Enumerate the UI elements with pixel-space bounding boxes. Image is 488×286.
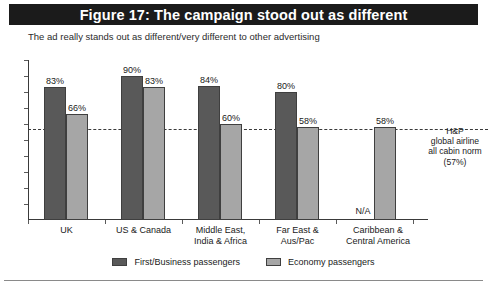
- bar-first-business-far-east-auspac: [275, 92, 297, 220]
- figure-subtitle: The ad really stands out as different/ve…: [28, 31, 320, 42]
- bar-group-middle-east-india-africa: 84% 60%: [182, 60, 259, 220]
- bar-label-economy-far-east-auspac: 58%: [293, 116, 323, 126]
- bar-label-first-business-middle-east-india-africa: 84%: [194, 75, 224, 85]
- bar-label-economy-middle-east-india-africa: 60%: [216, 113, 246, 123]
- x-axis-tick: [259, 220, 260, 224]
- legend-swatch-economy-icon: [266, 258, 281, 266]
- x-axis-category-label-us-canada: US & Canada: [105, 225, 182, 236]
- legend-swatch-first-business-icon: [112, 258, 127, 266]
- bar-group-far-east-auspac: 80% 58%: [259, 60, 336, 220]
- legend-item-economy: Economy passengers: [266, 257, 375, 267]
- bar-label-economy-caribbean-central-america: 58%: [370, 116, 400, 126]
- bar-label-first-business-far-east-auspac: 80%: [271, 81, 301, 91]
- category-label-line2: India & Africa: [182, 236, 259, 247]
- category-label-line1: Caribbean &: [336, 225, 420, 236]
- chart-legend: First/Business passengers Economy passen…: [0, 257, 487, 267]
- x-axis-category-label-uk: UK: [28, 225, 105, 236]
- bar-group-caribbean-central-america: N/A 58%: [336, 60, 413, 220]
- norm-annotation-line2: global airline: [424, 136, 486, 146]
- bar-economy-caribbean-central-america: [374, 127, 396, 220]
- bar-label-first-business-us-canada: 90%: [117, 65, 147, 75]
- bar-group-uk: 83% 66%: [28, 60, 105, 220]
- bar-label-economy-us-canada: 83%: [139, 76, 169, 86]
- bar-group-us-canada: 90% 83%: [105, 60, 182, 220]
- category-label-line2: Aus/Pac: [259, 236, 336, 247]
- bar-economy-uk: [66, 114, 88, 220]
- norm-annotation-line1: H&P: [424, 126, 486, 136]
- x-axis-category-label-caribbean-central-america: Caribbean & Central America: [336, 225, 420, 247]
- bar-label-economy-uk: 66%: [62, 103, 92, 113]
- x-axis-tick: [336, 220, 337, 224]
- x-axis-tick: [413, 220, 414, 224]
- bar-first-business-middle-east-india-africa: [198, 86, 220, 220]
- category-label-line1: Middle East,: [182, 225, 259, 236]
- bar-economy-us-canada: [143, 87, 165, 220]
- legend-label-first-business: First/Business passengers: [134, 257, 240, 267]
- x-axis-tick: [105, 220, 106, 224]
- bar-label-first-business-uk: 83%: [40, 76, 70, 86]
- x-axis-category-label-far-east-auspac: Far East & Aus/Pac: [259, 225, 336, 247]
- x-axis-tick: [182, 220, 183, 224]
- figure-title: Figure 17: The campaign stood out as dif…: [80, 7, 408, 23]
- figure-title-bar: Figure 17: The campaign stood out as dif…: [9, 4, 478, 25]
- category-label-line1: US & Canada: [105, 225, 182, 236]
- norm-annotation-line3: all cabin norm: [424, 146, 486, 156]
- x-axis-category-label-middle-east-india-africa: Middle East, India & Africa: [182, 225, 259, 247]
- bar-economy-far-east-auspac: [297, 127, 319, 220]
- norm-annotation-line4: (57%): [424, 157, 486, 167]
- chart-plot-area: 83% 66% 90% 83% 84% 60% 80% 58% N/A: [28, 60, 428, 220]
- legend-label-economy: Economy passengers: [288, 257, 375, 267]
- category-label-line1: UK: [28, 225, 105, 236]
- x-axis-tick: [28, 220, 29, 224]
- bar-economy-middle-east-india-africa: [220, 124, 242, 220]
- category-label-line2: Central America: [336, 236, 420, 247]
- category-label-line1: Far East &: [259, 225, 336, 236]
- reference-norm-annotation: H&P global airline all cabin norm (57%): [424, 126, 486, 167]
- footer-divider: [4, 280, 483, 281]
- legend-item-first-business: First/Business passengers: [112, 257, 240, 267]
- bar-first-business-us-canada: [121, 76, 143, 220]
